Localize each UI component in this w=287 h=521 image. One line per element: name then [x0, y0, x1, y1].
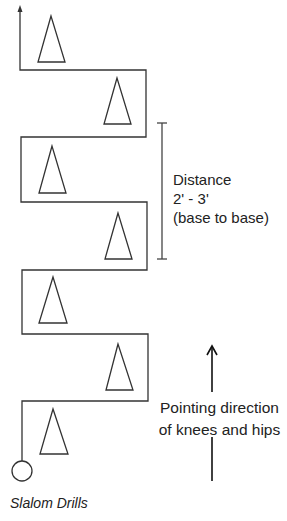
cone-icon	[39, 277, 67, 323]
direction-line-2: of knees and hips	[152, 419, 287, 441]
cone-icon	[106, 344, 133, 390]
direction-annotation: Pointing direction of knees and hips	[152, 397, 287, 441]
distance-value: 2' - 3'	[173, 189, 269, 208]
distance-bar-icon	[157, 123, 167, 259]
distance-note: (base to base)	[173, 208, 269, 227]
slalom-diagram	[0, 0, 287, 521]
direction-line-1: Pointing direction	[152, 397, 287, 419]
start-circle-icon	[12, 461, 32, 481]
cone-icon	[38, 16, 65, 62]
distance-annotation: Distance 2' - 3' (base to base)	[173, 170, 269, 227]
distance-label: Distance	[173, 170, 269, 189]
diagram-caption: Slalom Drills	[10, 495, 88, 511]
cone-icon	[40, 409, 68, 454]
cone-icon	[104, 78, 131, 124]
cone-icon	[39, 146, 66, 193]
path-arrowhead-icon	[18, 5, 23, 12]
cone-icon	[105, 213, 132, 259]
slalom-path	[20, 12, 148, 461]
